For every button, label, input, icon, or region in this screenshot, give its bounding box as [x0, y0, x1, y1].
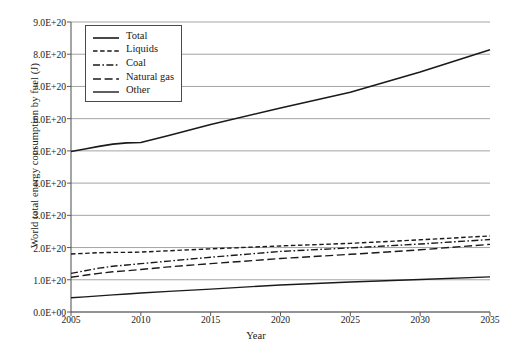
legend-item-label: Coal: [126, 57, 146, 69]
legend-item-other: Other: [92, 83, 174, 97]
x-tick-label: 2005: [41, 314, 101, 325]
legend-item-total: Total: [92, 29, 174, 43]
legend-item-label: Liquids: [126, 43, 158, 55]
x-tick-label: 2025: [320, 314, 380, 325]
series-line-natural-gas: [71, 244, 490, 277]
x-axis-label: Year: [0, 330, 512, 341]
legend-key-swatch: [92, 30, 120, 42]
legend-item-label: Other: [126, 84, 150, 96]
legend-key-swatch: [92, 84, 120, 96]
x-tick-label: 2010: [111, 314, 171, 325]
x-tick-label: 2035: [460, 314, 512, 325]
legend-item-natural-gas: Natural gas: [92, 70, 174, 84]
legend-item-label: Natural gas: [126, 71, 174, 83]
x-tick-label: 2030: [390, 314, 450, 325]
x-tick-label: 2020: [251, 314, 311, 325]
legend: TotalLiquidsCoalNatural gasOther: [85, 25, 182, 102]
legend-key-swatch: [92, 71, 120, 83]
legend-item-liquids: Liquids: [92, 43, 174, 57]
legend-key-swatch: [92, 43, 120, 55]
energy-consumption-line-chart: World total energy consumption by fuel (…: [0, 0, 512, 356]
plot-area: [0, 0, 512, 356]
series-line-coal: [71, 240, 490, 274]
legend-item-label: Total: [126, 30, 147, 42]
x-tick-label: 2015: [181, 314, 241, 325]
x-axis-tick-labels: 2005201020152020202520302035: [0, 314, 512, 330]
legend-key-swatch: [92, 57, 120, 69]
legend-item-coal: Coal: [92, 56, 174, 70]
